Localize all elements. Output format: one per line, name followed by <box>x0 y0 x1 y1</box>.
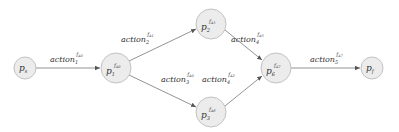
edge-label-action2: action2fA1 <box>121 31 154 45</box>
process-graph: action1fA0 action2fA1 action3fA0 action4… <box>0 0 399 132</box>
edge-label-action4-upper: action4fA5 <box>231 31 265 45</box>
edge-label-action1: action1fA0 <box>50 51 84 65</box>
edge-p3-p6 <box>225 76 262 106</box>
edge-label-action5: action5fA7 <box>310 51 344 65</box>
edge-label-action3: action3fA0 <box>161 71 195 85</box>
node-p2: p2fA5 <box>196 9 226 39</box>
node-p3: p3fA6 <box>196 97 226 127</box>
edge-label-action4-lower: action4fA2 <box>202 71 236 85</box>
node-ps: ps <box>14 57 36 79</box>
node-p6: p6fA7 <box>261 53 291 83</box>
edge-p1-p2 <box>129 29 196 61</box>
node-pf: pf <box>361 57 383 79</box>
node-p1: p1fA0 <box>101 53 131 83</box>
